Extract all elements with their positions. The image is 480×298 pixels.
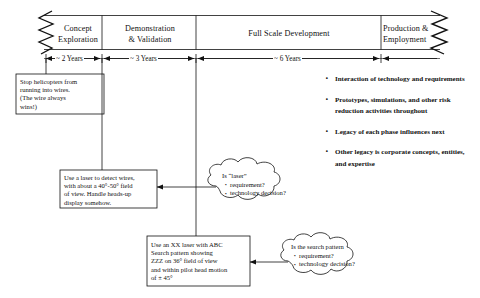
phase-label-production-employment: Production & Employment [383,24,433,45]
key-point-item: Other legacy is corporate concepts, enti… [322,147,474,170]
key-point-item: Prototypes, simulations, and other risk … [322,95,474,118]
key-points-list: Interaction of technology and requiremen… [322,74,474,180]
phase-label-concept-exploration: Concept Exploration [56,24,100,45]
search-pattern-question-list: requirement? technology decision? [291,252,371,269]
search-pattern-question-cloud-text: Is the search pattern requirement? techn… [291,243,371,269]
duration-label-concept-exploration: ~ 2 Years [55,55,84,63]
laser-question-heading: Is “laser” [222,172,292,181]
diagram-canvas: Concept Exploration Demonstration & Vali… [0,0,480,298]
key-point-item: Interaction of technology and requiremen… [322,74,474,86]
search-pattern-question-heading: Is the search pattern [291,243,371,252]
key-point-item: Legacy of each phase influences next [322,127,474,139]
phase-label-full-scale-development: Full Scale Development [198,29,380,40]
torn-edge-right [431,11,447,54]
search-pattern-question-item: technology decision? [299,260,371,269]
laser-question-cloud-text: Is “laser” requirement? technology decis… [222,172,292,198]
laser-question-item: technology decision? [230,189,292,198]
duration-label-demonstration-validation: ~ 3 Years [129,55,158,63]
phase-label-demonstration-validation: Demonstration & Validation [106,24,194,45]
laser-question-list: requirement? technology decision? [222,181,292,198]
search-pattern-question-item: requirement? [299,252,371,261]
torn-edge-left [39,11,53,54]
laser-question-item: requirement? [230,181,292,190]
duration-label-full-scale-development: ~ 6 Years [273,55,302,63]
need-note-text: Stop helicopters from running into wires… [20,78,102,111]
xx-laser-spec-note-text: Use an XX laser with ABC Search pattern … [151,241,249,282]
laser-requirement-note-text: Use a laser to detect wires, with about … [64,174,156,207]
